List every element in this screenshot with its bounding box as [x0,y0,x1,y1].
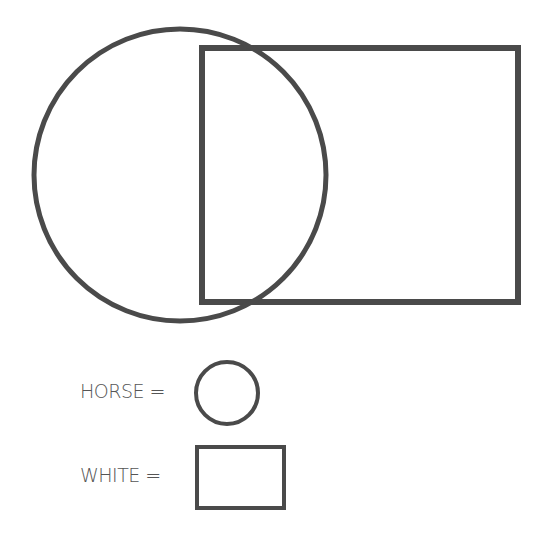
legend-label-white: WHITE = [80,464,161,486]
legend-symbols [196,362,284,508]
legend-label-horse: HORSE = [80,380,165,402]
horse-circle [34,29,326,321]
legend-rectangle-icon [197,447,284,508]
white-rectangle [202,48,518,302]
main-diagram [34,29,518,321]
legend-circle-icon [196,362,258,424]
